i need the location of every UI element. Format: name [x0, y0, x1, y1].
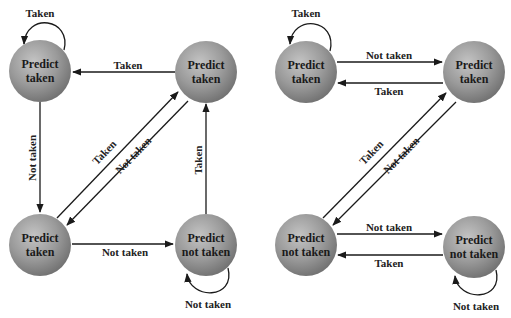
edge-label: Not taken — [366, 49, 412, 61]
edge-label: Not taken — [113, 134, 154, 176]
state-node: Predict taken — [443, 41, 505, 103]
edge-label: Taken — [192, 146, 204, 175]
svg-text:Predict: Predict — [455, 233, 492, 247]
edge-label: Not taken — [381, 134, 422, 176]
edge-label: Taken — [357, 138, 386, 167]
state-node: Predict not taken — [275, 214, 337, 276]
svg-text:not taken: not taken — [450, 247, 499, 261]
state-node: Predict taken — [9, 214, 71, 276]
state-node: Predict taken — [175, 41, 237, 103]
state-node: Predict not taken — [175, 214, 237, 276]
svg-text:Predict: Predict — [287, 58, 324, 72]
svg-text:Predict: Predict — [21, 231, 58, 245]
svg-text:taken: taken — [192, 72, 221, 86]
branch-predictor-diagrams: Taken Taken Not taken Taken Not taken Ta… — [0, 0, 511, 318]
edge-label: Taken — [90, 138, 119, 167]
state-node: Predict not taken — [443, 216, 505, 278]
edge-r3-r2-taken — [323, 93, 446, 218]
svg-text:Predict: Predict — [455, 58, 492, 72]
edge-label: Not taken — [26, 135, 38, 181]
svg-text:taken: taken — [26, 71, 55, 85]
svg-text:not taken: not taken — [282, 245, 331, 259]
svg-text:Predict: Predict — [187, 58, 224, 72]
state-node: Predict taken — [9, 40, 71, 102]
edge-label: Taken — [375, 257, 404, 269]
edge-label: Not taken — [102, 246, 148, 258]
edge-label: Not taken — [453, 300, 499, 312]
left-state-machine: Taken Taken Not taken Taken Not taken Ta… — [9, 7, 237, 310]
svg-text:not taken: not taken — [182, 245, 231, 259]
edge-label: Taken — [375, 85, 404, 97]
edge-label: Not taken — [185, 298, 231, 310]
svg-text:Predict: Predict — [21, 57, 58, 71]
right-state-machine: Taken Not taken Taken Taken Not taken No… — [275, 7, 505, 312]
svg-text:taken: taken — [26, 245, 55, 259]
svg-text:Predict: Predict — [287, 231, 324, 245]
edge-label: Taken — [114, 59, 143, 71]
svg-text:Predict: Predict — [187, 231, 224, 245]
edge-label: Not taken — [366, 221, 412, 233]
svg-text:taken: taken — [460, 72, 489, 86]
edge-label: Taken — [26, 7, 55, 19]
edge-s3-s2-taken — [57, 92, 178, 218]
edge-label: Taken — [292, 7, 321, 19]
svg-text:taken: taken — [292, 72, 321, 86]
state-node: Predict taken — [275, 41, 337, 103]
